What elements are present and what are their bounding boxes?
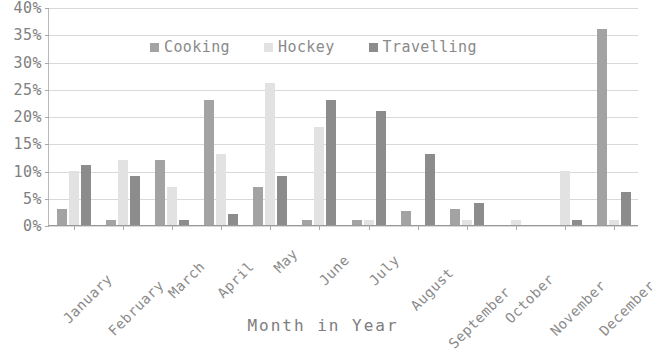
bar-travelling-september bbox=[474, 203, 484, 225]
legend-label: Cooking bbox=[164, 38, 230, 56]
legend-swatch-travelling-icon bbox=[369, 43, 378, 52]
bar-travelling-november bbox=[572, 220, 582, 225]
legend-entry-hockey[interactable]: Hockey bbox=[264, 38, 335, 56]
bar-hockey-march bbox=[167, 187, 177, 225]
y-tick-label: 40% bbox=[13, 0, 42, 17]
bar-cooking-february bbox=[106, 220, 116, 225]
month-bar-group bbox=[492, 8, 541, 225]
x-tick-label: January bbox=[105, 228, 161, 284]
y-tick-label: 30% bbox=[13, 54, 42, 72]
bar-travelling-august bbox=[425, 154, 435, 225]
bar-hockey-november bbox=[560, 171, 570, 226]
bar-cooking-december bbox=[597, 29, 607, 225]
bar-hockey-february bbox=[118, 160, 128, 225]
x-tick-label: August bbox=[446, 228, 495, 277]
y-tickmark bbox=[45, 226, 49, 227]
legend-entry-travelling[interactable]: Travelling bbox=[369, 38, 477, 56]
month-bar-group bbox=[541, 8, 590, 225]
x-axis-category-labels: JanuaryFebruaryMarchAprilMayJuneJulyAugu… bbox=[48, 228, 638, 308]
bar-cooking-may bbox=[253, 187, 263, 225]
y-tick-label: 5% bbox=[23, 190, 42, 208]
legend-swatch-cooking-icon bbox=[150, 43, 159, 52]
bar-hockey-april bbox=[216, 154, 226, 225]
bar-travelling-march bbox=[179, 220, 189, 225]
x-tick-label: July bbox=[392, 228, 429, 265]
y-tick-label: 20% bbox=[13, 108, 42, 126]
bar-travelling-february bbox=[130, 176, 140, 225]
bar-cooking-august bbox=[401, 211, 411, 225]
x-tick-label: June bbox=[343, 228, 380, 265]
month-bar-group bbox=[590, 8, 639, 225]
bar-travelling-april bbox=[228, 214, 238, 225]
bar-hockey-may bbox=[265, 83, 275, 225]
y-tick-label: 10% bbox=[13, 163, 42, 181]
x-tick-label-text: July bbox=[365, 252, 402, 289]
x-tick-label-text: August bbox=[407, 264, 456, 313]
legend-swatch-hockey-icon bbox=[264, 43, 273, 52]
bar-travelling-july bbox=[376, 111, 386, 225]
bar-travelling-december bbox=[621, 192, 631, 225]
x-axis-title: Month in Year bbox=[0, 316, 646, 335]
bar-cooking-april bbox=[204, 100, 214, 225]
gridline bbox=[49, 226, 638, 227]
y-tick-label: 35% bbox=[13, 26, 42, 44]
legend-label: Travelling bbox=[383, 38, 477, 56]
bar-cooking-january bbox=[57, 209, 67, 225]
bar-cooking-july bbox=[352, 220, 362, 225]
y-tick-label: 15% bbox=[13, 135, 42, 153]
bar-cooking-march bbox=[155, 160, 165, 225]
y-tick-label: 25% bbox=[13, 81, 42, 99]
bar-travelling-may bbox=[277, 176, 287, 225]
bar-travelling-june bbox=[326, 100, 336, 225]
x-tick-label: May bbox=[291, 228, 321, 258]
x-tick-label-text: June bbox=[316, 252, 353, 289]
bar-cooking-september bbox=[450, 209, 460, 225]
legend-label: Hockey bbox=[278, 38, 335, 56]
x-tick-label-text: April bbox=[214, 258, 257, 301]
month-bar-group bbox=[49, 8, 98, 225]
month-bar-group bbox=[98, 8, 147, 225]
y-tick-label: 0% bbox=[23, 217, 42, 235]
legend-entry-cooking[interactable]: Cooking bbox=[150, 38, 230, 56]
y-axis: 40%35%30%25%20%15%10%5%0% bbox=[0, 0, 46, 235]
bar-hockey-june bbox=[314, 127, 324, 225]
chart-legend: CookingHockeyTravelling bbox=[150, 38, 477, 56]
bar-hockey-january bbox=[69, 171, 79, 226]
bar-travelling-january bbox=[81, 165, 91, 225]
bar-cooking-june bbox=[302, 220, 312, 225]
